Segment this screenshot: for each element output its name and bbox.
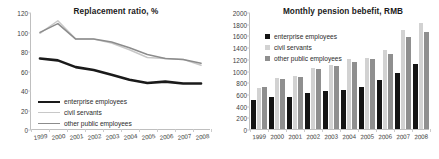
bar [370, 59, 375, 129]
bar [269, 97, 274, 129]
bar [365, 58, 370, 129]
bar [275, 78, 280, 129]
legend-label: enterprise employees [274, 33, 337, 40]
legend-label: other public employees [274, 55, 342, 62]
bar [305, 93, 310, 129]
x-axis-tick-mark [430, 129, 431, 132]
y-axis-tick-mark [28, 71, 31, 72]
bar [406, 37, 411, 129]
bar [424, 32, 429, 129]
x-axis-tick-mark [376, 129, 377, 132]
bar [383, 50, 388, 129]
bar [334, 66, 339, 129]
bar [262, 87, 267, 129]
legend-item-other-public-employees: other public employees [265, 53, 342, 64]
legend-item-other-public-employees: other public employees [38, 118, 132, 129]
x-axis-tick-mark [31, 129, 32, 132]
x-axis-tick-mark [340, 129, 341, 132]
x-axis-tick-mark [139, 129, 140, 132]
x-axis-tick-label: 1999 [33, 132, 48, 141]
bar [251, 100, 256, 129]
x-axis-tick-mark [268, 129, 269, 132]
bar [298, 77, 303, 129]
x-axis-tick-mark [67, 129, 68, 132]
x-axis-tick-label: 1999 [252, 133, 266, 141]
bar [280, 79, 285, 129]
figure-container: Replacement ratio, % 0204060801001201999… [0, 0, 439, 159]
bar-group [304, 12, 322, 129]
chart-panel-monthly-pension-benefit: Monthly pension bebefit, RMB 02004006008… [218, 0, 439, 159]
x-axis-tick-label: 2008 [195, 132, 210, 141]
x-axis-tick-mark [286, 129, 287, 132]
x-axis-tick-label: 2000 [51, 132, 66, 141]
bar [287, 97, 292, 129]
bar-group [340, 12, 358, 129]
legend-label: other public employees [64, 120, 132, 127]
bar [329, 65, 334, 129]
x-axis-tick-mark [175, 129, 176, 132]
legend-item-enterprise-employees: enterprise employees [38, 96, 132, 107]
x-axis-tick-label: 2003 [105, 132, 120, 141]
x-axis-tick-label: 2002 [87, 132, 102, 141]
x-axis-tick-label: 2008 [414, 133, 428, 141]
x-axis-tick-label: 2005 [360, 133, 374, 141]
bar [413, 64, 418, 129]
x-axis-tick-mark [193, 129, 194, 132]
y-axis-tick-mark [28, 91, 31, 92]
legend-item-enterprise-employees: enterprise employees [265, 31, 342, 42]
x-axis-tick-mark [412, 129, 413, 132]
x-axis-tick-mark [304, 129, 305, 132]
x-axis-tick-label: 2002 [306, 133, 320, 141]
bar-group [286, 12, 304, 129]
x-axis-tick-mark [322, 129, 323, 132]
bar [341, 90, 346, 129]
bar-group [250, 12, 268, 129]
bar [401, 30, 406, 129]
legend-label: civil servants [274, 44, 312, 51]
bar [419, 23, 424, 129]
x-axis-tick-label: 2007 [396, 133, 410, 141]
legend-line-icon [38, 101, 60, 103]
x-axis-tick-mark [250, 129, 251, 132]
legend-swatch-icon [265, 45, 270, 50]
x-axis-tick-mark [85, 129, 86, 132]
bar [359, 87, 364, 129]
bar [347, 59, 352, 129]
legend-item-civil-servants: civil servants [265, 42, 342, 53]
x-axis-tick-label: 2004 [342, 133, 356, 141]
legend-line-icon [38, 123, 60, 124]
bar [257, 88, 262, 129]
x-axis-tick-label: 2006 [159, 132, 174, 141]
x-axis-tick-label: 2006 [378, 133, 392, 141]
x-axis-tick-mark [394, 129, 395, 132]
legend-right: enterprise employees civil servants othe… [265, 31, 342, 64]
bar [388, 54, 393, 129]
line-series [40, 24, 201, 64]
x-axis-tick-label: 2001 [69, 132, 84, 141]
x-axis-tick-mark [49, 129, 50, 132]
x-axis-tick-label: 2004 [123, 132, 138, 141]
x-axis-tick-mark [358, 129, 359, 132]
legend-swatch-icon [265, 34, 270, 39]
legend-left: enterprise employees civil servants othe… [38, 96, 132, 129]
bar [311, 68, 316, 129]
y-axis-tick-mark [28, 52, 31, 53]
legend-swatch-icon [265, 56, 270, 61]
x-axis-tick-label: 2005 [141, 132, 156, 141]
legend-item-civil-servants: civil servants [38, 107, 132, 118]
legend-label: civil servants [64, 109, 102, 116]
bar-group [394, 12, 412, 129]
bar-group [376, 12, 394, 129]
bar [352, 62, 357, 129]
chart-panel-replacement-ratio: Replacement ratio, % 0204060801001201999… [0, 0, 218, 159]
bar [377, 80, 382, 129]
bar-group [358, 12, 376, 129]
y-axis-tick-mark [28, 110, 31, 111]
y-axis-tick-mark [28, 32, 31, 33]
bar-group [412, 12, 430, 129]
legend-line-icon [38, 112, 60, 113]
bar-group [322, 12, 340, 129]
bar [323, 91, 328, 129]
bar [316, 69, 321, 129]
bar [395, 73, 400, 129]
